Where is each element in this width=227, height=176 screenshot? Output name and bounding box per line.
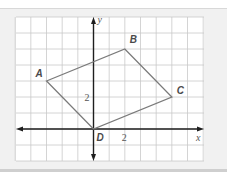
grid-background — [16, 17, 204, 161]
point-label-A: A — [35, 68, 43, 79]
point-label-B: B — [130, 34, 137, 45]
coordinate-plane: A B C D x y 2 2 — [0, 0, 227, 176]
x-tick-label-2: 2 — [122, 132, 127, 143]
y-tick-label-2: 2 — [85, 92, 90, 103]
y-axis-label: y — [97, 14, 103, 25]
point-label-C: C — [177, 85, 185, 96]
point-label-D: D — [97, 132, 104, 143]
x-axis-label: x — [195, 132, 201, 143]
